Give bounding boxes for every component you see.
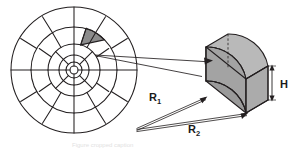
- label-r1-subscript: 1: [157, 97, 161, 106]
- label-r2-subscript: 2: [196, 129, 200, 138]
- label-r2: R: [188, 123, 196, 135]
- label-r1: R: [149, 91, 157, 103]
- caption-remnant: Figure cropped caption: [72, 142, 133, 148]
- label-h: H: [280, 78, 288, 90]
- figure-canvas: R 1 R 2 H Figure cropped caption: [0, 0, 289, 150]
- figure-root: R 1 R 2 H Figure cropped caption: [0, 0, 289, 150]
